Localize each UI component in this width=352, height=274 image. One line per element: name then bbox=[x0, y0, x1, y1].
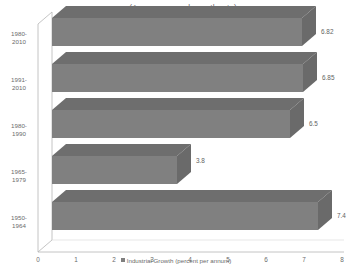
bar-1980-2010 bbox=[52, 6, 316, 46]
industrial-growth-bar-chart: (Average annual growth rate) bbox=[0, 0, 352, 274]
bar-1965-1979 bbox=[52, 144, 191, 184]
value-label-3: 6.5 bbox=[309, 120, 318, 127]
bar-1991-2010 bbox=[52, 52, 317, 92]
category-label-3: 1980- 1990 bbox=[2, 122, 36, 138]
legend-label: Industrial Growth (percent per annum) bbox=[127, 257, 232, 264]
chart-bars bbox=[0, 0, 352, 274]
chart-legend: Industrial Growth (percent per annum) bbox=[0, 256, 352, 264]
category-label-5: 1950- 1964 bbox=[2, 214, 36, 230]
legend-swatch-icon bbox=[121, 258, 125, 262]
bar-1950-1964 bbox=[52, 190, 332, 230]
value-label-4: 3.8 bbox=[196, 157, 205, 164]
category-label-4: 1965- 1979 bbox=[2, 168, 36, 184]
value-label-5: 7.4 bbox=[337, 212, 346, 219]
value-label-2: 6.85 bbox=[322, 74, 334, 81]
value-label-1: 6.82 bbox=[321, 28, 333, 35]
category-label-2: 1991- 2010 bbox=[2, 76, 36, 92]
category-label-1: 1980- 2010 bbox=[2, 30, 36, 46]
bar-1980-1990 bbox=[52, 98, 304, 138]
